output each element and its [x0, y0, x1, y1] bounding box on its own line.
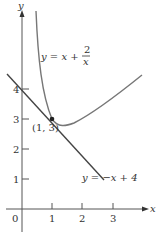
y-axis-label: y: [17, 0, 24, 11]
axes: y x 0: [6, 0, 156, 232]
svg-text:2: 2: [84, 44, 90, 55]
y-axis-arrow-icon: [20, 10, 25, 17]
x-tick-1: 1: [49, 213, 55, 224]
y-tick-2: 2: [13, 144, 19, 155]
curve-label: y = x + 2 x: [40, 44, 90, 67]
x-axis-arrow-icon: [142, 207, 149, 212]
x-axis-label: x: [150, 203, 156, 214]
intersection-label: (1, 3): [32, 122, 59, 133]
x-ticks: 1 2 3: [49, 203, 116, 224]
curve-x-plus-2-over-x: [36, 11, 142, 126]
chart: y x 0 1 2 3 1 2 3 4 y = x + 2 x y = −x +…: [0, 0, 160, 238]
y-ticks: 1 2 3 4: [13, 84, 29, 185]
y-tick-1: 1: [13, 174, 19, 185]
svg-text:x: x: [83, 56, 89, 67]
svg-text:y = x +: y = x +: [40, 51, 79, 62]
x-tick-2: 2: [79, 213, 85, 224]
origin-label: 0: [12, 213, 18, 224]
x-tick-3: 3: [110, 213, 116, 224]
y-tick-3: 3: [13, 114, 19, 125]
intersection-point: [50, 117, 55, 122]
line-label: y = −x + 4: [81, 172, 138, 183]
